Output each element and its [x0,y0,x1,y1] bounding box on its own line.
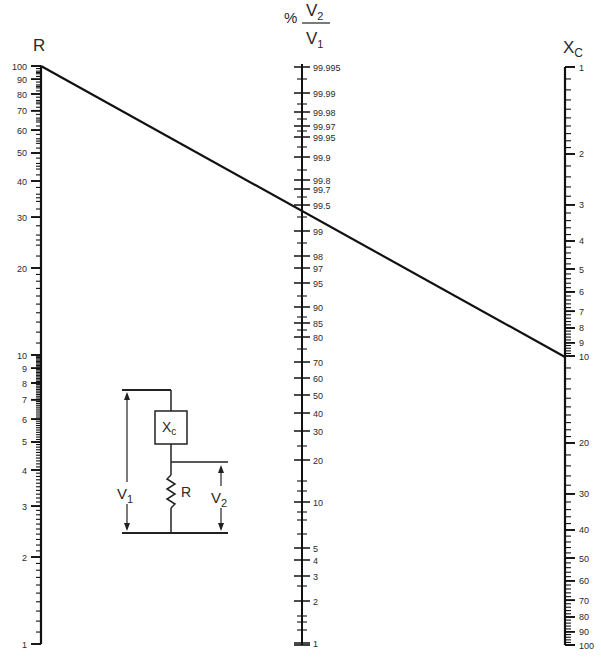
xc-tick-label: 100 [579,641,594,651]
r-tick-label: 70 [17,106,27,116]
r-axis-title: R [33,36,45,55]
r-tick-label: 3 [22,502,27,512]
r-tick-label: 6 [22,415,27,425]
ratio-tick-label: 99.99 [313,89,336,99]
xc-tick-label: 80 [579,612,589,622]
xc-tick-label: 50 [579,554,589,564]
circuit-inset: Xc R V1 V2 [116,390,232,533]
nomograph: 100908070605040302010987654321 99.99599.… [0,0,601,666]
xc-tick-label: 40 [579,525,589,535]
xc-tick-label: 70 [579,596,589,606]
ratio-tick-label: 10 [313,498,323,508]
percent-sign: % [284,9,297,26]
r-tick-label: 60 [17,126,27,136]
r-tick-label: 5 [22,437,27,447]
arrow-down-icon [218,523,224,531]
r-tick-label: 30 [17,213,27,223]
ratio-denominator: V1 [306,29,323,50]
r-tick-label: 2 [22,553,27,563]
r-tick-label: 8 [22,379,27,389]
xc-tick-label: 90 [579,627,589,637]
xc-tick-label: 10 [579,352,589,362]
ratio-tick-label: 4 [313,556,318,566]
arrow-up-icon [218,465,224,473]
r-axis: 100908070605040302010987654321 [12,62,41,650]
ratio-tick-label: 90 [313,303,323,313]
ratio-tick-label: 85 [313,319,323,329]
ratio-tick-label: 20 [313,456,323,466]
r-tick-label: 4 [22,466,27,476]
r-tick-label: 10 [17,351,27,361]
ratio-tick-label: 99 [313,227,323,237]
xc-tick-label: 8 [579,323,584,333]
ratio-tick-label: 99.995 [313,63,341,73]
ratio-tick-label: 99.95 [313,133,336,143]
ratio-tick-label: 98 [313,252,323,262]
xc-tick-label: 9 [579,338,584,348]
arrow-down-icon [124,523,130,531]
r-tick-label: 7 [22,395,27,405]
xc-axis: 123456789102030405060708090100 [565,63,594,651]
ratio-tick-label: 99.9 [313,153,331,163]
ratio-tick-label: 3 [313,572,318,582]
ratio-tick-label: 97 [313,264,323,274]
r-tick-label: 40 [17,177,27,187]
r-tick-label: 80 [17,90,27,100]
ratio-tick-label: 30 [313,427,323,437]
arrow-up-icon [124,392,130,400]
xc-tick-label: 6 [579,287,584,297]
xc-tick-label: 3 [579,200,584,210]
ratio-axis: 99.99599.9999.9899.9799.9599.999.899.799… [294,63,341,649]
ratio-tick-label: 95 [313,279,323,289]
ratio-axis-title: % V2 V1 [284,1,330,50]
resistor-icon [167,475,175,508]
ratio-tick-label: 5 [313,544,318,554]
ratio-tick-label: 80 [313,333,323,343]
r-tick-label: 1 [22,640,27,650]
r-tick-label: 20 [17,264,27,274]
r-tick-label: 50 [17,148,27,158]
ratio-tick-label: 70 [313,358,323,368]
r-tick-label: 100 [12,62,27,72]
xc-tick-label: 7 [579,307,584,317]
ratio-tick-label: 50 [313,391,323,401]
resistor-label: R [181,484,191,500]
ratio-tick-label: 1 [313,639,318,649]
r-tick-label: 90 [17,75,27,85]
xc-tick-label: 30 [579,489,589,499]
xc-tick-label: 5 [579,265,584,275]
r-tick-label: 9 [22,364,27,374]
xc-tick-label: 1 [579,63,584,73]
xc-tick-label: 20 [579,438,589,448]
ratio-tick-label: 2 [313,597,318,607]
xc-axis-title: XC [563,38,583,60]
ratio-tick-label: 60 [313,374,323,384]
ratio-tick-label: 99.5 [313,201,331,211]
xc-tick-label: 4 [579,236,584,246]
xc-tick-label: 2 [579,149,584,159]
xc-tick-label: 60 [579,576,589,586]
ratio-tick-label: 40 [313,409,323,419]
ratio-tick-label: 99.98 [313,108,336,118]
ratio-numerator: V2 [306,1,323,22]
ratio-tick-label: 99.7 [313,185,331,195]
ratio-tick-label: 99.97 [313,122,336,132]
